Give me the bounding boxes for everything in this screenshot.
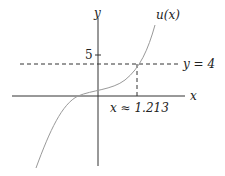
x-axis-label: x [190, 89, 197, 103]
graph-canvas: y x 5 u(x) y = 4 x ≈ 1.213 [0, 0, 225, 176]
y-tick-label: 5 [85, 48, 93, 62]
reference-line-label: y = 4 [182, 57, 215, 71]
curve-label: u(x) [156, 8, 180, 22]
y-axis-label: y [93, 6, 101, 20]
solution-label: x ≈ 1.213 [110, 101, 169, 115]
